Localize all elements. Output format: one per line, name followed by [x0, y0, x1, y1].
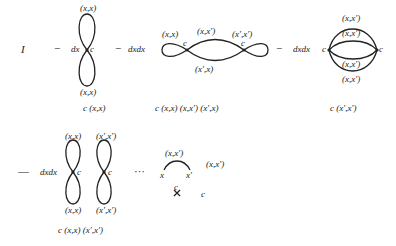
edge-label: (x,x): [65, 132, 81, 141]
arc-end-right: x′: [186, 171, 192, 180]
minus: −: [54, 43, 60, 54]
edge-label: (x′,x′): [96, 132, 116, 141]
edge-label: (x,x′): [197, 27, 215, 36]
arc-label: (x,x′): [165, 149, 183, 158]
cross-label: c: [174, 183, 178, 192]
factor: c (x′,x′): [330, 104, 356, 113]
measure: dxdx: [128, 45, 145, 54]
factor: c (x,x) (x,x′) (x′,x): [155, 104, 218, 113]
rhs-label: c: [201, 190, 205, 199]
rhs-label: (x,x′): [206, 160, 224, 169]
minus: −: [276, 43, 282, 54]
edge-label: (x′,x): [195, 65, 213, 74]
vertex-label: c: [241, 39, 245, 48]
edge-label: (x,x′): [342, 29, 360, 38]
minus: −: [115, 43, 121, 54]
loop-right: [244, 44, 268, 57]
factor: c (x,x): [83, 104, 105, 113]
edge-label: (x,x): [80, 4, 96, 13]
edge-label: (x,x′): [342, 14, 360, 23]
middle-bubble: [187, 40, 244, 61]
edge-label: (x′,x′): [232, 30, 252, 39]
factor: c (x,x) (x′,x′): [58, 226, 103, 235]
vertex-label: c: [183, 39, 187, 48]
identity: I: [21, 44, 25, 55]
measure: dxdx: [293, 45, 310, 54]
edge-label: (x′,x′): [96, 206, 116, 215]
arc-end-left: x: [160, 171, 164, 180]
ellipsis: ···: [134, 166, 145, 177]
vertex-label: c: [108, 168, 112, 177]
vertex-label: c: [90, 45, 94, 54]
diagram-lines: [0, 0, 396, 246]
edge-label: (x,x): [65, 206, 81, 215]
measure: dxdx: [40, 168, 57, 177]
edge-label: (x,x′): [342, 60, 360, 69]
vertex-label: c: [379, 45, 383, 54]
minus: —: [18, 166, 29, 177]
edge-label: (x,x): [162, 30, 178, 39]
vertex-label: c: [77, 168, 81, 177]
vertex-label: c: [322, 45, 326, 54]
edge-label: (x,x′): [342, 75, 360, 84]
edge-label: (x,x): [80, 88, 96, 97]
measure: dx: [71, 45, 80, 54]
